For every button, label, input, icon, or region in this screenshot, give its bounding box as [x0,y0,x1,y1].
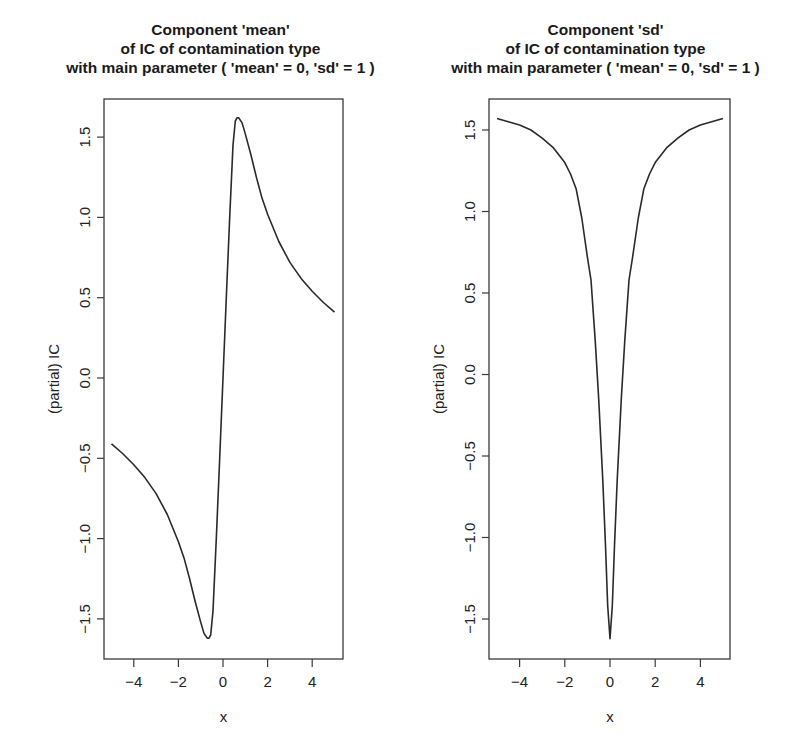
x-tick-label: 0 [219,673,227,690]
x-tick-label: 4 [308,673,316,690]
y-tick-label: −0.5 [461,441,478,471]
y-tick-label: 0.5 [76,287,93,308]
y-tick-label: −1.5 [461,604,478,634]
plot-frame [489,99,730,659]
y-tick-label: 0.0 [461,364,478,385]
plot-mean: −1.5−1.0−0.50.00.51.01.5 −4−2024 x (part… [45,99,343,725]
y-axis-label: (partial) IC [45,344,62,414]
x-axis: −4−2024 [125,659,316,690]
plot-sd: −1.5−1.0−0.50.00.51.01.5 −4−2024 x (part… [430,99,730,725]
x-tick-label: −4 [511,673,528,690]
x-axis: −4−2024 [511,659,705,690]
y-tick-label: 1.0 [76,207,93,228]
y-axis: −1.5−1.0−0.50.00.51.01.5 [76,127,104,634]
x-tick-label: 4 [696,673,704,690]
y-tick-label: −0.5 [76,443,93,473]
y-tick-label: 0.5 [461,283,478,304]
y-tick-label: −1.0 [76,524,93,554]
x-tick-label: 2 [263,673,271,690]
ic-curve-mean [112,118,335,638]
y-tick-label: 0.0 [76,368,93,389]
y-tick-label: 1.0 [461,201,478,222]
y-tick-label: 1.5 [76,127,93,148]
y-axis-label: (partial) IC [430,344,447,414]
x-tick-label: −4 [125,673,142,690]
y-tick-label: 1.5 [461,120,478,141]
y-tick-label: −1.0 [461,523,478,553]
x-tick-label: −2 [556,673,573,690]
ic-curve-sd [497,119,723,639]
y-tick-label: −1.5 [76,604,93,634]
plots-canvas: −1.5−1.0−0.50.00.51.01.5 −4−2024 x (part… [0,0,802,751]
x-tick-label: 0 [606,673,614,690]
x-axis-label: x [606,708,614,725]
x-tick-label: −2 [170,673,187,690]
y-axis: −1.5−1.0−0.50.00.51.01.5 [461,120,489,634]
x-axis-label: x [220,708,228,725]
x-tick-label: 2 [651,673,659,690]
